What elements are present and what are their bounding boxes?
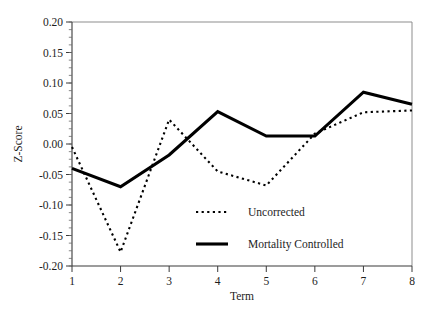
- x-tick-label: 4: [215, 275, 221, 287]
- x-tick-label: 6: [312, 275, 318, 287]
- x-tick-label: 8: [409, 275, 415, 287]
- chart-figure: 0.200.150.100.050.00-0.05-0.10-0.15-0.20…: [0, 0, 432, 318]
- y-tick-label: 0.15: [43, 47, 63, 59]
- y-tick-label: -0.10: [39, 199, 63, 211]
- x-axis-title: Term: [230, 290, 254, 302]
- x-tick-label: 3: [166, 275, 172, 287]
- x-axis-ticks: 12345678: [69, 266, 415, 287]
- legend-label-uncorrected: Uncorrected: [248, 206, 305, 218]
- y-tick-label: 0.00: [43, 138, 63, 150]
- x-tick-label: 7: [361, 275, 367, 287]
- x-tick-label: 1: [69, 275, 75, 287]
- x-tick-label: 2: [118, 275, 124, 287]
- y-tick-label: 0.20: [43, 16, 63, 28]
- line-chart: 0.200.150.100.050.00-0.05-0.10-0.15-0.20…: [0, 0, 432, 318]
- y-tick-label: 0.10: [43, 77, 63, 89]
- x-tick-label: 5: [263, 275, 269, 287]
- legend-label-mortality-controlled: Mortality Controlled: [248, 238, 344, 251]
- plot-area-background: [72, 22, 412, 266]
- y-tick-label: -0.05: [39, 169, 63, 181]
- y-tick-label: 0.05: [43, 108, 63, 120]
- y-tick-label: -0.15: [39, 230, 63, 242]
- y-axis-ticks: 0.200.150.100.050.00-0.05-0.10-0.15-0.20: [39, 16, 72, 272]
- y-tick-label: -0.20: [39, 260, 63, 272]
- y-axis-title: Z-Score: [12, 125, 24, 162]
